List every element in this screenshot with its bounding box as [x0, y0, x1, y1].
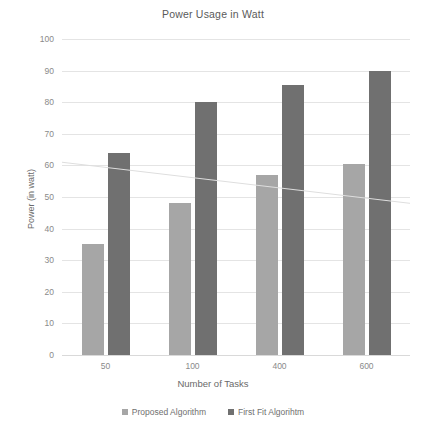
- chart-title: Power Usage in Watt: [0, 8, 426, 20]
- x-axis-title: Number of Tasks: [0, 378, 426, 389]
- y-axis-tick-label: 20: [14, 287, 54, 297]
- x-axis-tick-label: 50: [76, 361, 136, 371]
- x-axis-tick-label: 400: [250, 361, 310, 371]
- gridline: [62, 102, 410, 103]
- y-axis-tick-label: 30: [14, 255, 54, 265]
- x-axis-tick-label: 100: [163, 361, 223, 371]
- gridline: [62, 39, 410, 40]
- gridline: [62, 134, 410, 135]
- y-axis-tick-label: 80: [14, 97, 54, 107]
- bar-first-fit-algorihtm-50: [108, 153, 130, 355]
- legend-label: Proposed Algorithm: [132, 407, 206, 417]
- legend-swatch-icon: [228, 409, 234, 415]
- plot-area: [62, 39, 410, 355]
- bar-proposed-algorithm-600: [343, 164, 365, 355]
- bar-first-fit-algorihtm-400: [282, 85, 304, 355]
- y-axis-tick-label: 50: [14, 192, 54, 202]
- y-axis-tick-label: 100: [14, 34, 54, 44]
- legend-label: First Fit Algorihtm: [238, 407, 304, 417]
- gridline: [62, 71, 410, 72]
- legend-swatch-icon: [122, 409, 128, 415]
- chart-container: Power Usage in Watt Power (in watt) 0102…: [0, 0, 426, 435]
- y-axis-tick-label: 60: [14, 160, 54, 170]
- y-axis-tick-label: 10: [14, 318, 54, 328]
- x-axis-tick-label: 600: [337, 361, 397, 371]
- bar-proposed-algorithm-400: [256, 175, 278, 355]
- legend-item[interactable]: Proposed Algorithm: [122, 407, 206, 417]
- y-axis-tick-label: 70: [14, 129, 54, 139]
- bar-proposed-algorithm-100: [169, 203, 191, 355]
- gridline: [62, 355, 410, 356]
- bar-first-fit-algorihtm-600: [369, 71, 391, 355]
- chart-legend: Proposed AlgorithmFirst Fit Algorihtm: [0, 407, 426, 417]
- y-axis-tick-label: 90: [14, 66, 54, 76]
- y-axis-tick-label: 40: [14, 224, 54, 234]
- legend-item[interactable]: First Fit Algorihtm: [228, 407, 304, 417]
- bar-proposed-algorithm-50: [82, 244, 104, 355]
- bar-first-fit-algorihtm-100: [195, 102, 217, 355]
- y-axis-tick-label: 0: [14, 350, 54, 360]
